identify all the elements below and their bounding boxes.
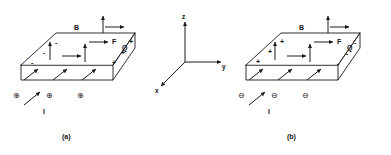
edge-sign-b-right-2: - <box>346 50 348 57</box>
current-label-b: I <box>268 108 270 115</box>
edge-sign-b-left-3: + <box>256 58 260 65</box>
current-arrow-b-2 <box>278 69 292 80</box>
edge-sign-b-left-1: + <box>280 38 284 45</box>
carrier-b-1: ⊖ <box>238 92 245 100</box>
edge-sign-b-right-3: - <box>337 60 339 67</box>
panel-b-graphics <box>0 0 391 155</box>
slab-b-front-face <box>246 65 338 80</box>
current-lead-arrow-b <box>249 92 265 105</box>
b-field-label-b: B <box>299 24 304 31</box>
carrier-b-3: ⊖ <box>302 92 309 100</box>
current-arrow-b-1 <box>249 69 263 80</box>
carrier-b-2: ⊖ <box>271 92 278 100</box>
panel-b-caption: (b) <box>287 133 296 140</box>
slab-b-right-face <box>338 33 360 80</box>
edge-sign-b-right-1: - <box>354 39 356 46</box>
current-arrow-b-3 <box>307 69 321 80</box>
figure-canvas: B F Q I - - - + + + ⊕ ⊕ ⊕ (a) z y x <box>0 0 391 155</box>
edge-sign-b-left-2: + <box>268 48 272 55</box>
slab-b-top-face <box>246 33 360 65</box>
f-force-label-b: F <box>337 38 341 45</box>
